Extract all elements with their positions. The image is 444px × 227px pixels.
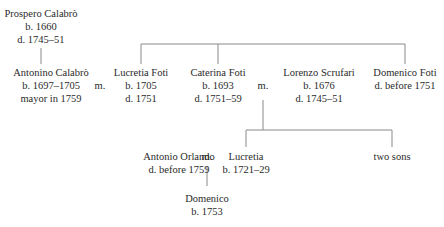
person-name: Lucretia Foti (114, 66, 169, 79)
person-two-sons: two sons (373, 150, 410, 163)
person-lucretia-foti: Lucretia Foti b. 1705 d. 1751 (114, 66, 169, 105)
person-name: Domenico Foti (373, 66, 436, 79)
person-name: Domenico (185, 192, 229, 205)
person-name: two sons (373, 150, 410, 163)
person-domenico-foti: Domenico Foti d. before 1751 (373, 66, 436, 92)
person-name: Lucretia (222, 150, 269, 163)
person-name: Antonino Calabrò (13, 66, 89, 79)
marriage-label: m. (258, 79, 269, 92)
person-domenico: Domenico b. 1753 (185, 192, 229, 218)
person-antonino-calabro: Antonino Calabrò b. 1697–1705 mayor in 1… (13, 66, 89, 105)
person-name: Caterina Foti (190, 66, 245, 79)
person-prospero-calabro: Prospero Calabrò b. 1660 d. 1745–51 (4, 7, 77, 46)
person-lucretia: Lucretia b. 1721–29 (222, 150, 269, 176)
marriage-label: m. (95, 79, 106, 92)
marriage-label: m. (202, 150, 213, 163)
person-lorenzo-scrufari: Lorenzo Scrufari b. 1676 d. 1745–51 (283, 66, 354, 105)
person-name: Prospero Calabrò (4, 7, 77, 20)
person-caterina-foti: Caterina Foti b. 1693 d. 1751–59 (190, 66, 245, 105)
person-name: Lorenzo Scrufari (283, 66, 354, 79)
